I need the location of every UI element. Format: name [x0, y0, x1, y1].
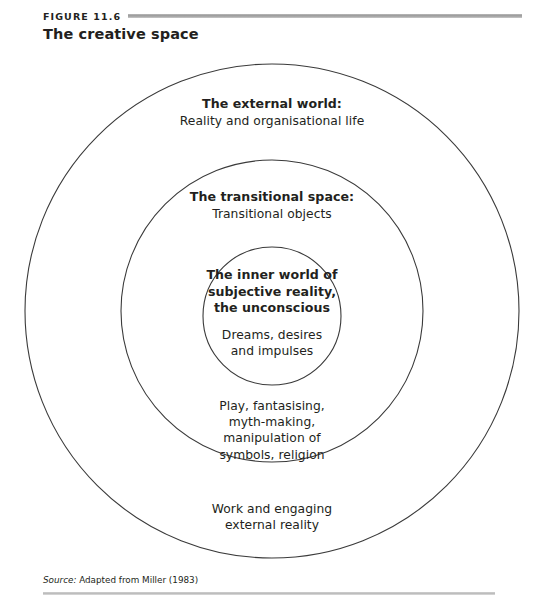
inner-sub-line-2: and impulses — [190, 343, 354, 359]
inner-heading-line-2: subjective reality, — [186, 284, 358, 301]
middle-lower-line-1: Play, fantasising, — [166, 398, 378, 414]
outer-layer-top-text: The external world: Reality and organisa… — [120, 96, 424, 129]
outer-layer-heading: The external world: — [120, 96, 424, 113]
middle-layer-heading: The transitional space: — [150, 189, 394, 206]
footer-rule — [43, 592, 495, 595]
middle-lower-line-2: myth-making, — [166, 414, 378, 430]
middle-layer-subtitle: Transitional objects — [150, 206, 394, 222]
figure-label-row: FIGURE 11.6 — [43, 9, 522, 23]
outer-layer-subtitle: Reality and organisational life — [120, 113, 424, 129]
inner-sub-line-1: Dreams, desires — [190, 327, 354, 343]
header-rule — [128, 14, 522, 18]
outer-layer-lower-text: Work and engaging external reality — [150, 501, 394, 533]
outer-lower-line-2: external reality — [150, 517, 394, 533]
figure-number: FIGURE 11.6 — [43, 11, 121, 22]
inner-heading-line-3: the unconscious — [186, 300, 358, 317]
inner-layer-heading: The inner world of subjective reality, t… — [186, 267, 358, 317]
figure-title: The creative space — [43, 26, 522, 42]
source-prefix: Source: — [43, 575, 76, 585]
source-note: Source: Adapted from Miller (1983) — [43, 575, 198, 585]
middle-lower-line-3: manipulation of — [166, 430, 378, 446]
middle-layer-top-text: The transitional space: Transitional obj… — [150, 189, 394, 222]
figure-header: FIGURE 11.6 The creative space — [43, 9, 522, 43]
inner-heading-line-1: The inner world of — [186, 267, 358, 284]
middle-layer-lower-text: Play, fantasising, myth-making, manipula… — [166, 398, 378, 463]
source-text: Adapted from Miller (1983) — [76, 575, 198, 585]
middle-lower-line-4: symbols, religion — [166, 447, 378, 463]
outer-lower-line-1: Work and engaging — [150, 501, 394, 517]
inner-layer-subtext: Dreams, desires and impulses — [190, 327, 354, 359]
